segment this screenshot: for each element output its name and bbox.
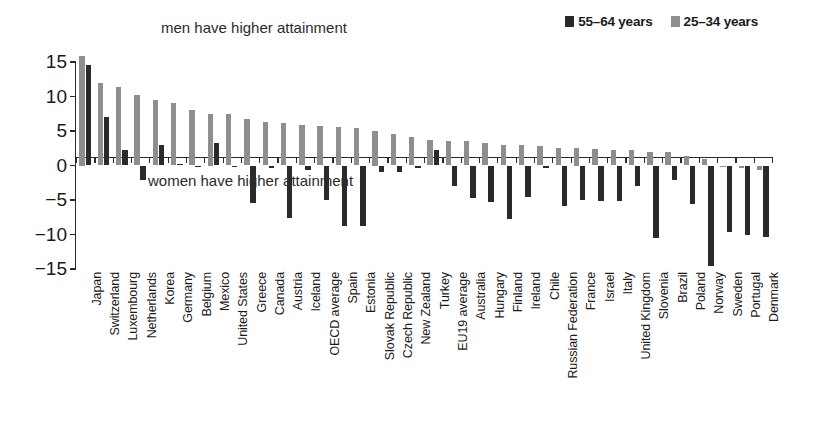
- bar[interactable]: [635, 166, 640, 187]
- bar[interactable]: [543, 166, 548, 168]
- bar-group[interactable]: [516, 62, 534, 269]
- bar-group[interactable]: [735, 62, 753, 269]
- bar[interactable]: [269, 166, 274, 168]
- bar[interactable]: [702, 159, 707, 165]
- bar[interactable]: [672, 166, 677, 180]
- bar[interactable]: [263, 122, 268, 165]
- bar-group[interactable]: [131, 62, 149, 269]
- bar[interactable]: [232, 166, 237, 167]
- bar[interactable]: [763, 166, 768, 238]
- bar-group[interactable]: [589, 62, 607, 269]
- bar-group[interactable]: [332, 62, 350, 269]
- bar-group[interactable]: [754, 62, 772, 269]
- bar[interactable]: [317, 126, 322, 165]
- bar[interactable]: [98, 83, 103, 166]
- bar[interactable]: [507, 166, 512, 219]
- bar[interactable]: [580, 166, 585, 201]
- bar[interactable]: [690, 166, 695, 205]
- bar-group[interactable]: [497, 62, 515, 269]
- bar-group[interactable]: [149, 62, 167, 269]
- bar[interactable]: [391, 134, 396, 166]
- bar[interactable]: [354, 128, 359, 165]
- bar-group[interactable]: [241, 62, 259, 269]
- bar-group[interactable]: [314, 62, 332, 269]
- bar-group[interactable]: [204, 62, 222, 269]
- bar[interactable]: [525, 166, 530, 198]
- bar-group[interactable]: [113, 62, 131, 269]
- bar[interactable]: [360, 166, 365, 227]
- bar-group[interactable]: [571, 62, 589, 269]
- bar-group[interactable]: [699, 62, 717, 269]
- bar[interactable]: [171, 103, 176, 165]
- bar[interactable]: [244, 119, 249, 165]
- bar[interactable]: [617, 166, 622, 202]
- bar-group[interactable]: [607, 62, 625, 269]
- bar[interactable]: [727, 166, 732, 232]
- bar[interactable]: [116, 87, 121, 166]
- bar[interactable]: [574, 148, 579, 165]
- bar-group[interactable]: [351, 62, 369, 269]
- bar[interactable]: [708, 166, 713, 267]
- bar-group[interactable]: [186, 62, 204, 269]
- bar[interactable]: [653, 166, 658, 238]
- bar[interactable]: [79, 56, 84, 165]
- bar-group[interactable]: [406, 62, 424, 269]
- bar[interactable]: [562, 166, 567, 206]
- bar[interactable]: [629, 150, 634, 165]
- bar-group[interactable]: [662, 62, 680, 269]
- bar[interactable]: [415, 166, 420, 169]
- bar[interactable]: [598, 166, 603, 202]
- bar[interactable]: [104, 117, 109, 165]
- bar[interactable]: [86, 65, 91, 165]
- bar[interactable]: [720, 166, 725, 167]
- bar[interactable]: [434, 150, 439, 165]
- bar-group[interactable]: [461, 62, 479, 269]
- bar-group[interactable]: [296, 62, 314, 269]
- bar[interactable]: [501, 145, 506, 166]
- bar[interactable]: [379, 166, 384, 172]
- bar[interactable]: [336, 127, 341, 166]
- bar[interactable]: [757, 166, 762, 170]
- bar-group[interactable]: [479, 62, 497, 269]
- bar[interactable]: [134, 95, 139, 165]
- bar[interactable]: [464, 141, 469, 165]
- bar[interactable]: [177, 164, 182, 165]
- bar[interactable]: [488, 166, 493, 203]
- bar-group[interactable]: [76, 62, 94, 269]
- bar-group[interactable]: [644, 62, 662, 269]
- bar-group[interactable]: [552, 62, 570, 269]
- bar-group[interactable]: [277, 62, 295, 269]
- bar-group[interactable]: [717, 62, 735, 269]
- bar-group[interactable]: [534, 62, 552, 269]
- bar[interactable]: [446, 141, 451, 166]
- bar-group[interactable]: [424, 62, 442, 269]
- bar-group[interactable]: [625, 62, 643, 269]
- bar[interactable]: [159, 145, 164, 166]
- bar[interactable]: [122, 150, 127, 166]
- bar-group[interactable]: [94, 62, 112, 269]
- bar[interactable]: [592, 149, 597, 166]
- bar[interactable]: [208, 114, 213, 166]
- bar[interactable]: [140, 166, 145, 180]
- bar[interactable]: [482, 143, 487, 166]
- bar-group[interactable]: [223, 62, 241, 269]
- bar[interactable]: [397, 166, 402, 173]
- bar[interactable]: [537, 146, 542, 165]
- bar[interactable]: [452, 166, 457, 186]
- bar[interactable]: [299, 125, 304, 166]
- bar[interactable]: [745, 166, 750, 236]
- bar-group[interactable]: [369, 62, 387, 269]
- bar[interactable]: [372, 131, 377, 166]
- bar[interactable]: [427, 140, 432, 166]
- bar[interactable]: [409, 137, 414, 166]
- bar[interactable]: [470, 166, 475, 198]
- bar-group[interactable]: [259, 62, 277, 269]
- bar[interactable]: [739, 166, 744, 168]
- bar[interactable]: [665, 152, 670, 166]
- bar-group[interactable]: [168, 62, 186, 269]
- bar[interactable]: [647, 152, 652, 165]
- bar-group[interactable]: [680, 62, 698, 269]
- bar[interactable]: [684, 156, 689, 166]
- bar[interactable]: [305, 166, 310, 170]
- bar-group[interactable]: [387, 62, 405, 269]
